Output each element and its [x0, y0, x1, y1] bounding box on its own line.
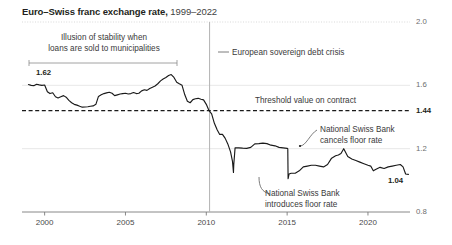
annotation-cancels-floor-rate: National Swiss Bank cancels floor rate — [320, 125, 395, 146]
exchange-rate-chart: Euro–Swiss franc exchange rate, 1999–202… — [0, 0, 452, 245]
y-axis-tick-label: 1.6 — [416, 80, 427, 89]
x-axis-tick-label: 2005 — [105, 218, 145, 227]
annotation-sovereign-debt-crisis: European sovereign debt crisis — [232, 48, 344, 59]
annotation-threshold-value: Threshold value on contract — [255, 96, 356, 107]
annotation-introduces-line2: introduces floor rate — [265, 200, 340, 211]
leader-dot-cancels — [299, 145, 301, 147]
annotation-introduces-floor-rate: National Swiss Bank introduces floor rat… — [265, 189, 340, 210]
annotation-illusion-of-stability: Illusion of stability when loans are sol… — [29, 33, 179, 54]
callout-end-value: 1.04 — [388, 176, 403, 185]
x-axis-tick-label: 2015 — [267, 218, 307, 227]
x-axis-tick-label: 2000 — [25, 218, 65, 227]
y-axis-tick-label: 0.8 — [416, 207, 427, 216]
annotation-cancels-line2: cancels floor rate — [320, 136, 395, 147]
y-axis-tick-label: 1.44 — [416, 106, 431, 115]
annotation-illusion-line2: loans are sold to municipalities — [29, 44, 179, 55]
annotation-illusion-line1: Illusion of stability when — [29, 33, 179, 44]
x-axis-tick-label: 2020 — [348, 218, 388, 227]
x-axis-tick-label: 2010 — [186, 218, 226, 227]
y-axis-tick-label: 1.2 — [416, 144, 427, 153]
y-axis-tick-label: 2.0 — [416, 17, 427, 26]
leader-cancels-floor-rate — [300, 130, 317, 146]
annotation-introduces-line1: National Swiss Bank — [265, 189, 340, 200]
callout-start-value: 1.62 — [36, 68, 51, 77]
annotation-cancels-line1: National Swiss Bank — [320, 125, 395, 136]
